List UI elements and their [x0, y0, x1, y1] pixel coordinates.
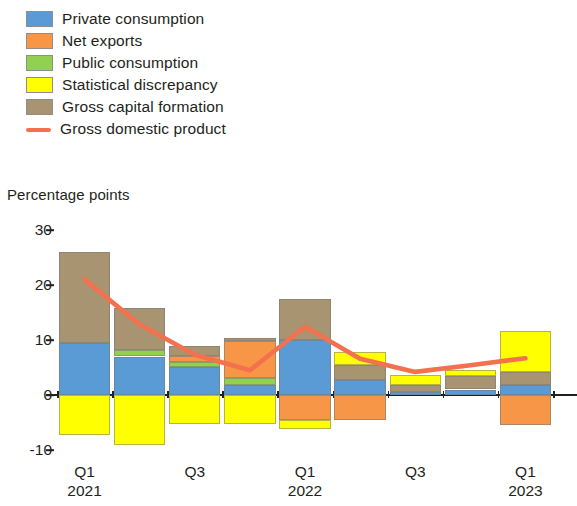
x-axis-year-label: 2022 [288, 481, 322, 500]
x-axis-tick-label: Q12023 [508, 462, 542, 500]
legend-item-label: Gross domestic product [60, 121, 226, 137]
x-axis-tick-label: Q12022 [288, 462, 322, 500]
x-axis-quarter-label: Q1 [74, 463, 95, 480]
legend-item: Net exports [26, 30, 356, 52]
x-axis: Q12021Q3Q12022Q3Q12023 [0, 462, 577, 506]
legend-item: Gross capital formation [26, 96, 356, 118]
legend-item: Private consumption [26, 8, 356, 30]
legend-item: Gross domestic product [26, 118, 356, 140]
gdp-line-path [85, 280, 526, 372]
legend-line-icon [26, 122, 51, 136]
legend-item-label: Net exports [62, 33, 142, 49]
x-axis-tick-label: Q12021 [67, 462, 101, 500]
x-axis-tick-label: Q3 [184, 462, 205, 481]
legend-swatch-icon [26, 33, 53, 49]
x-axis-quarter-label: Q1 [295, 463, 316, 480]
legend-item-label: Private consumption [62, 11, 204, 27]
x-axis-year-label: 2021 [67, 481, 101, 500]
legend-swatch-icon [26, 77, 53, 93]
legend-swatch-icon [26, 11, 53, 27]
legend-item-label: Gross capital formation [62, 99, 224, 115]
x-axis-quarter-label: Q1 [515, 463, 536, 480]
x-axis-year-label: 2023 [508, 481, 542, 500]
x-axis-quarter-label: Q3 [184, 463, 205, 480]
legend-item: Statistical discrepancy [26, 74, 356, 96]
legend-item-label: Public consumption [62, 55, 198, 71]
y-axis-title: Percentage points [7, 186, 130, 203]
x-axis-quarter-label: Q3 [405, 463, 426, 480]
legend-swatch-icon [26, 99, 53, 115]
chart-legend: Private consumption Net exports Public c… [26, 8, 356, 140]
legend-swatch-icon [26, 55, 53, 71]
chart-plot-area: 3020100-10 [0, 210, 577, 460]
x-axis-tick-label: Q3 [405, 462, 426, 481]
legend-item: Public consumption [26, 52, 356, 74]
gdp-line-series [0, 210, 577, 460]
legend-item-label: Statistical discrepancy [62, 77, 218, 93]
